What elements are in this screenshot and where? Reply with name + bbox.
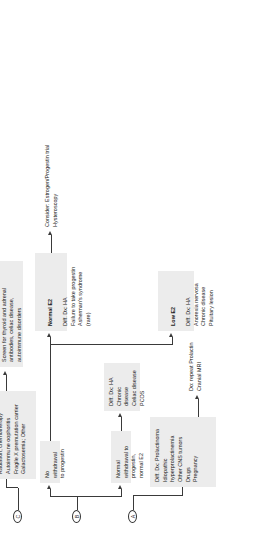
low-e2-body: Diff. Dx: HA Anorexia nervosa Chronic di… — [185, 283, 214, 326]
arrow-a-to-action-icon — [195, 395, 199, 399]
connector-a-stem — [133, 496, 134, 510]
arrow-c-to-action-icon — [3, 371, 7, 375]
normal-e2-box: Normal E2 Diff. Dx: HA Failure to take p… — [35, 253, 67, 331]
connector-b-lower — [121, 489, 122, 497]
arrow-b-upper-icon — [47, 485, 51, 489]
branch-node-b: B — [72, 510, 81, 523]
arrow-low-e2-icon — [169, 333, 173, 337]
connector-no-withdrawal-trunk — [50, 345, 51, 441]
branch-node-c: C — [13, 510, 22, 523]
branch-b-normal-withdrawal: Normal withdrawal to progestin, normal E… — [111, 431, 131, 483]
low-e2-title: Low E2 — [170, 307, 176, 326]
connector-e2-split — [50, 344, 172, 345]
connector-b-split — [50, 496, 121, 497]
connector-c-to-action — [6, 375, 7, 391]
branch-a-diff-dx: Diff. Dx: Prolactinoma Idiopathic hyperp… — [150, 417, 216, 487]
branch-c-diff-dx: Diff. Dx: POI Turner Syndrome Radiation,… — [0, 391, 36, 479]
connector-a-to-action — [198, 399, 199, 417]
branch-node-a: A — [128, 510, 137, 523]
connector-to-low-e2 — [172, 337, 173, 345]
low-e2-box: Low E2 Diff. Dx: HA Anorexia nervosa Chr… — [158, 271, 194, 331]
connector-to-normal-e2 — [50, 337, 51, 345]
connector-c-into-box — [6, 479, 7, 488]
connector-c-stem — [18, 488, 19, 510]
arrow-b-lower-to-dx-icon — [118, 413, 122, 417]
branch-b-no-withdrawal: No withdrawal to progestin — [40, 441, 60, 483]
connector-a-drop — [133, 495, 183, 496]
connector-normal-e2-to-consider — [51, 235, 52, 253]
arrow-consider-icon — [48, 231, 52, 235]
arrow-b-lower-icon — [118, 485, 122, 489]
connector-c-rise — [6, 487, 18, 488]
connector-b-upper — [50, 489, 51, 497]
branch-b-normal-withdrawal-dx: Diff. Dx: HA Chronic disease Celiac dise… — [104, 363, 140, 411]
connector-a-into-box — [182, 487, 183, 496]
normal-e2-body: Diff. Dx: HA Failure to take progestin A… — [62, 267, 91, 326]
branch-c-action: Do: Karyotype and Fragile X testing Scre… — [0, 261, 23, 367]
branch-a-action: Do: repeat Prolactin Cranial MRI — [188, 331, 203, 391]
connector-b-lower-to-dx — [121, 417, 122, 431]
normal-e2-action: Consider: Estrogen/Progestin trial Hyste… — [44, 107, 59, 227]
connector-b-stem — [77, 497, 78, 510]
arrow-normal-e2-icon — [47, 333, 51, 337]
normal-e2-title: Normal E2 — [47, 299, 53, 326]
flowchart-canvas: A Diff. Dx: Prolactinoma Idiopathic hype… — [0, 0, 265, 545]
